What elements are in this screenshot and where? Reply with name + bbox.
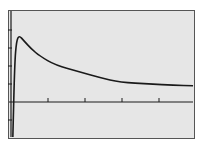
axis-ticks: [8, 30, 159, 120]
function-plot: [0, 0, 209, 149]
axes: [9, 11, 193, 137]
function-curve: [13, 37, 193, 137]
